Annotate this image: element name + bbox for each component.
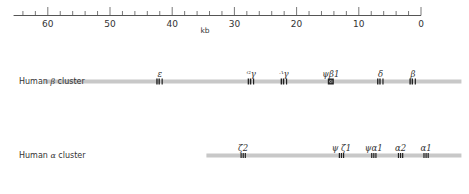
exon (245, 153, 246, 158)
exon (156, 79, 157, 85)
exon (382, 79, 383, 85)
tick-label: 30 (229, 19, 241, 29)
gene-label: ᴳγ (247, 69, 257, 79)
exon (371, 153, 372, 158)
gene-β: β (409, 69, 416, 85)
tick-label: 0 (418, 19, 424, 29)
label-suffix: cluster (56, 151, 86, 160)
label-prefix: Human (19, 77, 50, 86)
beta-cluster-label: Human β cluster (19, 77, 85, 86)
gene-label: ψβ1 (322, 69, 339, 79)
gene-label: δ (378, 69, 383, 79)
gene-label: ψα1 (365, 143, 383, 153)
exon (162, 79, 163, 85)
exon (248, 79, 249, 85)
exon (377, 79, 378, 85)
exon (241, 153, 242, 158)
exon (398, 153, 399, 158)
gene-δ: δ (377, 69, 384, 85)
exon (379, 79, 380, 85)
gene-label: α2 (395, 143, 406, 153)
exon (415, 79, 416, 85)
gene-label: ε (157, 69, 162, 79)
label-prefix: Human (19, 151, 50, 160)
exon (253, 79, 254, 85)
exon (343, 153, 344, 158)
exon (281, 79, 282, 85)
label-suffix: cluster (55, 77, 85, 86)
exon (283, 79, 284, 85)
alpha-cluster: ζ2ψ ζ1ψα1α2α1 (206, 143, 461, 159)
tick-label: 10 (353, 19, 365, 29)
gene-label: ᴬγ (279, 69, 290, 79)
exon (423, 153, 424, 158)
exon (250, 79, 251, 85)
exon (428, 153, 429, 158)
kb-scale-axis: 6050403020100kb (14, 7, 425, 35)
globin-cluster-diagram: 6050403020100kb εᴳγᴬγψβ1δβζ2ψ ζ1ψα1α2α1 (0, 0, 469, 194)
gene-label: ζ2 (238, 143, 248, 153)
beta-cluster: εᴳγᴬγψβ1δβ (45, 69, 462, 85)
cluster-bar (206, 154, 461, 158)
tick-label: 20 (291, 19, 303, 29)
exon (158, 79, 159, 85)
exon (341, 153, 342, 158)
alpha-cluster-label: Human α cluster (19, 151, 86, 160)
gene-label: ψ ζ1 (332, 143, 351, 153)
tick-label: 50 (104, 19, 116, 29)
axis-unit-label: kb (200, 26, 209, 35)
gene-label: α1 (420, 143, 431, 153)
exon (412, 79, 413, 85)
gene-label: β (409, 69, 415, 79)
exon (400, 153, 401, 158)
exon (409, 79, 410, 85)
exon (243, 153, 244, 158)
exon (373, 153, 374, 158)
exon (402, 153, 403, 158)
tick-label: 40 (166, 19, 178, 29)
exon (425, 153, 426, 158)
tick-label: 60 (42, 19, 54, 29)
exon (375, 153, 376, 158)
exon (339, 153, 340, 158)
gene-clusters: εᴳγᴬγψβ1δβζ2ψ ζ1ψα1α2α1 (45, 69, 462, 159)
exon (286, 79, 287, 85)
gene-ε: ε (156, 69, 163, 85)
